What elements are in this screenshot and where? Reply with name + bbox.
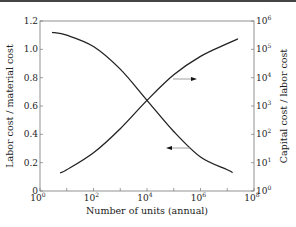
chart: 100102104106108 00.20.40.60.81.01.2 1001… (0, 0, 296, 227)
curves (52, 32, 238, 173)
right-y-tick-label: 105 (256, 42, 271, 54)
left-y-tick-label: 0.6 (24, 101, 39, 111)
right-y-tick-label: 103 (256, 99, 271, 111)
right-y-axis-title: Capital cost / labor cost (278, 49, 289, 164)
x-axis-ticks: 100102104106108 (30, 188, 259, 203)
x-axis-title: Number of units (annual) (86, 205, 208, 216)
capital-labor-curve (60, 39, 238, 173)
left-y-tick-label: 0.8 (24, 73, 39, 83)
left-y-tick-label: 0 (32, 186, 38, 196)
left-y-axis-title: Labor cost / material cost (4, 44, 15, 168)
left-y-tick-label: 1.2 (24, 16, 38, 26)
x-tick-label: 102 (84, 191, 99, 203)
right-y-tick-label: 106 (256, 14, 271, 26)
left-y-tick-label: 0.2 (24, 158, 38, 168)
right-y-tick-label: 102 (256, 127, 271, 139)
right-y-tick-label: 104 (256, 71, 271, 83)
left-y-tick-label: 0.4 (24, 129, 39, 139)
left-y-tick-label: 1.0 (24, 44, 39, 54)
right-y-tick-label: 100 (256, 184, 271, 196)
x-tick-label: 106 (191, 191, 206, 203)
x-tick-label: 104 (137, 191, 152, 203)
right-y-tick-label: 101 (256, 156, 271, 168)
